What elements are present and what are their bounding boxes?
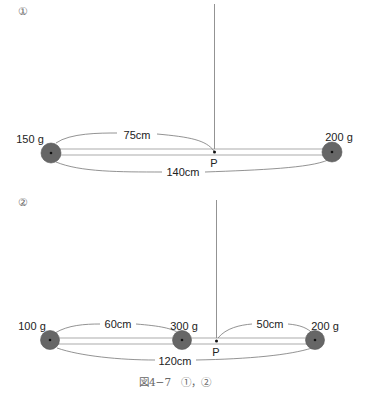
pivot-point — [213, 151, 216, 154]
dimension-arc-120 — [57, 348, 155, 360]
mass-label-right: 200 g — [311, 320, 339, 332]
diagram-canvas: ① 75cm 140cm 150 g 200 g P ② 60cm 50cm — [0, 0, 370, 402]
distance-label: 75cm — [124, 129, 151, 141]
dimension-arc-50 — [218, 324, 252, 338]
mass-label-right: 200 g — [325, 131, 353, 143]
dimension-arc-60 — [55, 324, 100, 333]
figure-1: ① 75cm 140cm 150 g 200 g P — [16, 4, 353, 178]
mass-label-left: 100 g — [18, 320, 46, 332]
figure-caption: 図4−7 ①，② — [139, 376, 212, 388]
dimension-arc-75 — [157, 134, 214, 151]
mass-label-middle: 300 g — [170, 320, 198, 332]
dimension-arc-140 — [205, 160, 328, 172]
pivot-point — [215, 340, 218, 343]
figure-1-marker: ① — [18, 5, 28, 18]
dimension-arc-140 — [56, 162, 162, 172]
figure-2-marker: ② — [18, 196, 28, 209]
figure-2: ② 60cm 50cm 120cm 100 g 300 g 200 g P — [18, 196, 339, 367]
total-length-label: 120cm — [158, 355, 191, 367]
rod — [51, 149, 332, 155]
distance-label-left: 60cm — [105, 318, 132, 330]
pivot-label: P — [210, 157, 217, 169]
pivot-label: P — [212, 346, 219, 358]
distance-label-right: 50cm — [257, 318, 284, 330]
dimension-arc-75 — [56, 133, 117, 143]
total-length-label: 140cm — [166, 166, 199, 178]
mass-label-left: 150 g — [16, 133, 44, 145]
